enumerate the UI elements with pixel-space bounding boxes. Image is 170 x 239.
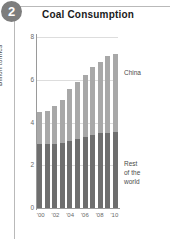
- bar-segment-rest-of-world: [83, 137, 88, 208]
- bar-segment-rest-of-world: [75, 139, 80, 208]
- step-badge: 2: [1, 1, 22, 22]
- bar-segment-china: [75, 82, 80, 139]
- x-axis-ticks: '00'02'04'06'08'10: [37, 212, 118, 222]
- gridline: 0: [37, 208, 118, 209]
- chart-figure: 2 Coal Consumption Billion tonnes 8 6 4 …: [0, 0, 170, 239]
- y-tick-label: 2: [30, 162, 34, 169]
- y-axis-label: Billion tonnes: [0, 45, 3, 86]
- bar-segment-china: [60, 100, 65, 143]
- series-label-rest-of-world: Rest of the world: [124, 160, 140, 186]
- bar-segment-china: [67, 89, 72, 140]
- bar: [90, 67, 95, 208]
- bar-segment-china: [105, 56, 110, 133]
- bar-segment-china: [113, 54, 118, 132]
- bar-segment-rest-of-world: [37, 144, 42, 208]
- bar: [52, 106, 57, 208]
- x-tick-label: '10: [110, 212, 118, 218]
- left-divider: [14, 6, 15, 239]
- bar-segment-rest-of-world: [45, 144, 50, 208]
- bar: [60, 100, 65, 208]
- bar-group: [37, 37, 118, 208]
- series-label-china: China: [124, 69, 141, 78]
- bar-segment-rest-of-world: [98, 133, 103, 208]
- bar-segment-rest-of-world: [90, 135, 95, 208]
- bar: [113, 54, 118, 208]
- x-tick-label: '04: [66, 212, 74, 218]
- bar: [105, 56, 110, 208]
- bar-segment-rest-of-world: [105, 133, 110, 208]
- y-tick-label: 8: [30, 34, 34, 41]
- header-divider: [14, 6, 170, 7]
- bar-segment-china: [52, 106, 57, 143]
- x-tick-label: '00: [37, 212, 45, 218]
- bar: [83, 75, 88, 208]
- bar-segment-rest-of-world: [113, 132, 118, 208]
- bar: [37, 112, 42, 208]
- bar-segment-china: [83, 75, 88, 137]
- x-tick-label: '02: [51, 212, 59, 218]
- y-tick-label: 0: [30, 205, 34, 212]
- bar-segment-china: [37, 112, 42, 144]
- bar-segment-china: [98, 62, 103, 134]
- bar: [75, 82, 80, 208]
- bar: [45, 111, 50, 208]
- x-tick-label: '06: [81, 212, 89, 218]
- bar-segment-rest-of-world: [60, 143, 65, 208]
- bar-segment-rest-of-world: [67, 141, 72, 208]
- chart-title: Coal Consumption: [42, 9, 162, 20]
- y-tick-label: 6: [30, 77, 34, 84]
- bar-segment-china: [90, 67, 95, 135]
- bar-segment-rest-of-world: [52, 144, 57, 208]
- bar: [98, 62, 103, 208]
- bar-segment-china: [45, 111, 50, 144]
- bar: [67, 89, 72, 208]
- y-tick-label: 4: [30, 120, 34, 127]
- x-tick-label: '08: [96, 212, 104, 218]
